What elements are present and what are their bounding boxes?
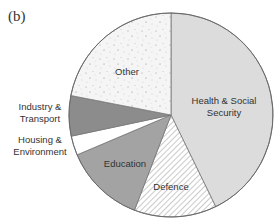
pie-chart: Health & SocialSecurityDefenceEducationH… xyxy=(0,0,279,221)
slice-label-housing-environment: Housing &Environment xyxy=(13,134,67,157)
slice-label-other: Other xyxy=(115,66,139,77)
slice-label-industry-transport: Industry &Transport xyxy=(19,101,62,124)
slice-label-defence: Defence xyxy=(153,181,188,192)
slice-label-education: Education xyxy=(104,158,146,169)
